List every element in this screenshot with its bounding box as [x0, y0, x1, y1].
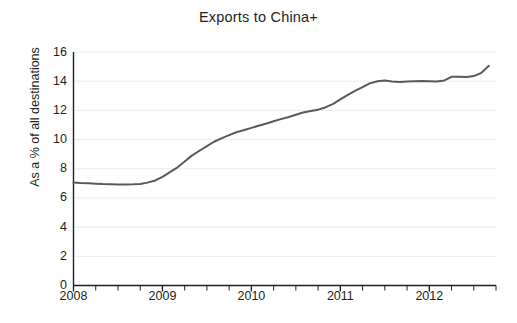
- x-tick-label: 2012: [415, 290, 443, 303]
- x-tick-label: 2008: [60, 290, 88, 303]
- x-tick-label: 2009: [149, 290, 177, 303]
- chart-figure: Exports to China+ As a % of all destinat…: [0, 0, 517, 323]
- x-tick-label: 2010: [237, 290, 265, 303]
- x-tick-label: 2011: [327, 290, 354, 303]
- x-axis-tick-labels: 20082009201020112012: [0, 0, 517, 323]
